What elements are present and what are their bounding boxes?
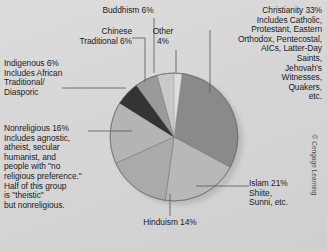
copyright-credit: © Cengage Learning xyxy=(311,135,318,209)
pie-label-nonreligious: Nonreligious 16% Includes agnostic, athe… xyxy=(4,124,116,210)
pie-label-hinduism: Hinduism 14% xyxy=(122,218,218,228)
pie-label-indigenous: Indigenous 6% Includes African Tradition… xyxy=(4,59,124,97)
figure-panel: Christianity 33% Includes Catholic, Prot… xyxy=(0,0,327,251)
pie-label-other: Other 4% xyxy=(144,27,182,46)
pie-label-chinese-traditional: Chinese Traditional 6% xyxy=(28,27,132,46)
pie-label-christianity: Christianity 33% Includes Catholic, Prot… xyxy=(198,6,322,102)
pie-label-buddhism: Buddhism 6% xyxy=(88,6,168,16)
